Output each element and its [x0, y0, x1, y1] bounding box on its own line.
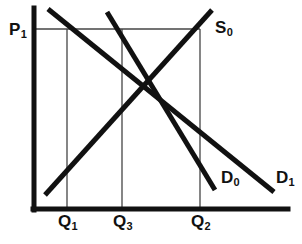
- price-label-P1-sub: 1: [21, 28, 27, 40]
- quantity-label-Q3-sub: 3: [127, 220, 133, 232]
- demand-label-D1-text: D: [276, 168, 288, 187]
- quantity-label-Q3-text: Q: [113, 212, 126, 231]
- guide-lines-group: [36, 29, 200, 209]
- supply-curve-S0: [45, 10, 212, 195]
- supply-label-S0-text: S: [215, 18, 226, 37]
- quantity-label-Q2: Q2: [191, 213, 210, 230]
- curves-group: [45, 9, 274, 195]
- supply-label-S0-sub: 0: [227, 26, 233, 38]
- quantity-label-Q1: Q1: [58, 213, 77, 230]
- demand-curve-D0: [107, 12, 215, 190]
- quantity-label-Q2-text: Q: [191, 212, 204, 231]
- quantity-label-Q3: Q3: [113, 213, 132, 230]
- quantity-label-Q1-text: Q: [58, 212, 71, 231]
- demand-label-D1-sub: 1: [289, 176, 295, 188]
- supply-label-S0: S0: [215, 19, 232, 36]
- supply-demand-figure: P1 S0 D0 D1 Q1 Q3 Q2: [0, 0, 302, 244]
- demand-label-D0-sub: 0: [234, 176, 240, 188]
- demand-label-D0: D0: [221, 169, 239, 186]
- demand-label-D1: D1: [276, 169, 294, 186]
- price-label-P1: P1: [9, 21, 26, 38]
- demand-label-D0-text: D: [221, 168, 233, 187]
- price-label-P1-text: P: [9, 20, 20, 39]
- chart-canvas: [0, 0, 302, 244]
- quantity-label-Q1-sub: 1: [72, 220, 78, 232]
- axes-group: [33, 8, 288, 210]
- quantity-label-Q2-sub: 2: [205, 220, 211, 232]
